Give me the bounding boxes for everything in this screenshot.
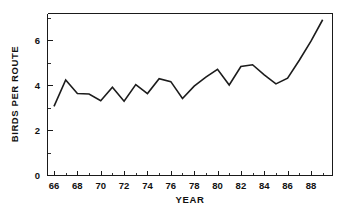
x-tick-label: 84 (259, 180, 270, 191)
x-tick-label: 80 (212, 180, 223, 191)
x-axis-tick-labels: 666870727476788082848688 (49, 180, 317, 191)
x-axis-ticks (55, 171, 324, 176)
x-tick-label: 70 (95, 180, 106, 191)
y-tick-label: 0 (35, 170, 40, 181)
y-axis-ticks (48, 19, 53, 176)
y-tick-label: 4 (35, 80, 41, 91)
x-tick-label: 68 (72, 180, 83, 191)
y-axis-title: BIRDS PER ROUTE (9, 46, 20, 143)
y-tick-label: 2 (35, 125, 40, 136)
x-tick-label: 86 (282, 180, 293, 191)
chart-canvas: 0246 666870727476788082848688 YEAR BIRDS… (0, 0, 360, 214)
x-tick-label: 74 (142, 180, 153, 191)
y-axis-tick-labels: 0246 (35, 35, 41, 181)
x-axis-title: YEAR (176, 194, 205, 205)
y-tick-label: 6 (35, 35, 40, 46)
x-tick-label: 72 (119, 180, 130, 191)
chart-figure: 0246 666870727476788082848688 YEAR BIRDS… (0, 0, 360, 214)
x-tick-label: 76 (166, 180, 177, 191)
x-tick-label: 82 (236, 180, 247, 191)
data-series-line (54, 20, 323, 107)
x-tick-label: 66 (49, 180, 60, 191)
x-tick-label: 88 (306, 180, 317, 191)
x-tick-label: 78 (189, 180, 200, 191)
